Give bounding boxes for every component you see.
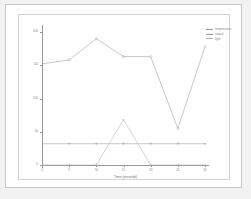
legend-label: light xyxy=(215,37,220,41)
x-axis-tick-mark xyxy=(124,165,125,167)
y-axis-tick-label: 50 xyxy=(24,130,38,133)
x-axis-tick-mark xyxy=(42,165,43,167)
x-axis-tick-label: 0 xyxy=(35,169,49,172)
x-axis-tick-mark xyxy=(178,165,179,167)
series-sound xyxy=(42,142,206,145)
series-temperature xyxy=(42,37,207,130)
series-light xyxy=(42,118,206,165)
legend-marker-icon xyxy=(209,37,211,39)
y-axis-tick-label: 100 xyxy=(24,97,38,100)
page-background: 200150100500 051015202530 Time (seconds)… xyxy=(0,0,251,199)
data-point-sound xyxy=(149,142,152,145)
x-axis-line xyxy=(42,165,209,166)
data-point-sound xyxy=(68,142,71,145)
legend-item-temperature[interactable]: temperature xyxy=(206,27,246,31)
y-axis-tick-label: 150 xyxy=(24,63,38,66)
x-axis-tick-label: 25 xyxy=(171,169,185,172)
legend-marker-icon xyxy=(209,33,211,35)
series-line-temperature xyxy=(42,39,205,129)
legend-label: temperature xyxy=(215,27,231,31)
data-point-sound xyxy=(42,142,43,145)
plot-area xyxy=(42,27,207,165)
legend-item-sound[interactable]: sound xyxy=(206,32,246,36)
x-axis-tick-label: 30 xyxy=(198,169,212,172)
data-point-sound xyxy=(176,142,179,145)
x-axis-tick-mark xyxy=(205,165,206,167)
y-axis-tick-label: 200 xyxy=(24,30,38,33)
data-point-sound xyxy=(95,142,98,145)
x-axis-tick-label: 20 xyxy=(144,169,158,172)
x-axis-tick-mark xyxy=(69,165,70,167)
legend-item-light[interactable]: light xyxy=(206,37,246,41)
x-axis-tick-mark xyxy=(96,165,97,167)
x-axis-tick-mark xyxy=(151,165,152,167)
x-axis-tick-label: 10 xyxy=(89,169,103,172)
chart-paper: 200150100500 051015202530 Time (seconds)… xyxy=(5,4,242,188)
x-axis-title: Time (seconds) xyxy=(42,175,209,179)
x-axis-tick-label: 15 xyxy=(117,169,131,172)
chart-legend: temperaturesoundlight xyxy=(206,27,246,41)
data-point-sound xyxy=(122,142,125,145)
data-point-light xyxy=(122,118,125,121)
x-axis-tick-label: 5 xyxy=(62,169,76,172)
data-point-sound xyxy=(204,142,207,145)
legend-label: sound xyxy=(215,32,223,36)
y-axis-tick-label: 0 xyxy=(24,163,38,166)
legend-marker-icon xyxy=(209,28,211,30)
data-point-temperature xyxy=(204,45,207,48)
